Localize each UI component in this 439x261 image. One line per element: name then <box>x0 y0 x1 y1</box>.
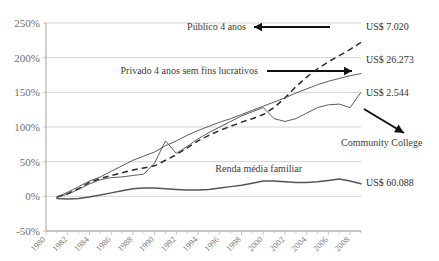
right-value-label: US$ 26.273 <box>366 54 414 65</box>
right-value-labels-group: US$ 7.020US$ 26.273US$ 2.544US$ 60.088 <box>366 21 414 188</box>
y-tick-label: 50% <box>20 156 40 168</box>
arrow-privado-head <box>344 67 352 75</box>
x-tick-label: 1994 <box>180 234 200 254</box>
right-value-label: US$ 60.088 <box>366 177 414 188</box>
y-tick-label: 100% <box>14 121 40 133</box>
y-tick-label: 150% <box>14 86 40 98</box>
arrow-publico-head <box>254 23 262 31</box>
y-tick-label: 0% <box>25 190 40 202</box>
x-tick-label: 1980 <box>28 234 47 253</box>
x-tick-label: 2004 <box>289 234 309 254</box>
y-tick-label: 250% <box>14 17 40 29</box>
line-chart-svg: 250%200%150%100%50%0%-50% 19801982198419… <box>0 0 439 261</box>
y-axis-ticks-group: 250%200%150%100%50%0%-50% <box>14 17 46 237</box>
gridlines-group <box>46 23 361 231</box>
annotation-community-college: Community College <box>341 137 423 148</box>
x-tick-label: 1990 <box>137 234 156 253</box>
x-tick-label: 1992 <box>159 234 178 253</box>
x-axis-ticks-group: 1980198219841986198819901992199419961998… <box>28 231 361 253</box>
x-tick-label: 1984 <box>72 234 92 254</box>
x-tick-label: 1982 <box>50 234 69 253</box>
x-tick-label: 1996 <box>202 234 221 253</box>
x-tick-label: 2006 <box>311 234 330 253</box>
x-tick-label: 2002 <box>267 234 286 253</box>
y-tick-label: -50% <box>16 225 40 237</box>
right-value-label: US$ 7.020 <box>366 21 409 32</box>
x-tick-label: 1998 <box>224 234 243 253</box>
x-tick-label: 2008 <box>332 234 351 253</box>
x-tick-label: 2000 <box>246 234 265 253</box>
x-tick-label: 1986 <box>93 234 112 253</box>
right-value-label: US$ 2.544 <box>366 87 409 98</box>
annotation-publico-4-anos: Público 4 anos <box>187 21 246 32</box>
y-tick-label: 200% <box>14 52 40 64</box>
annotation-renda-media-familiar: Renda média familiar <box>215 163 302 174</box>
chart-container: 250%200%150%100%50%0%-50% 19801982198419… <box>0 0 439 261</box>
annotation-privado-4-anos: Privado 4 anos sem fins lucrativos <box>121 65 259 76</box>
x-tick-label: 1988 <box>115 234 134 253</box>
